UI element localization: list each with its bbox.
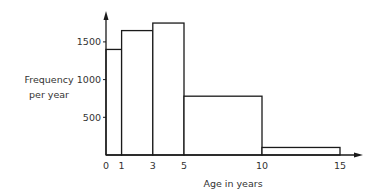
x-tick-label: 1 — [119, 160, 125, 171]
y-ticks: 50010001500 — [77, 36, 106, 122]
histogram-bars — [106, 23, 340, 155]
y-tick-label: 1500 — [77, 36, 101, 47]
histogram-bar — [122, 31, 153, 155]
histogram-bar — [184, 96, 262, 155]
y-axis-arrow-icon — [104, 11, 109, 20]
x-tick-label: 3 — [150, 160, 156, 171]
histogram-bar — [106, 49, 122, 155]
histogram-chart: 50010001500 01351015 Age in years — [0, 0, 373, 196]
x-tick-label: 0 — [103, 160, 109, 171]
histogram-bar — [262, 147, 340, 155]
x-axis-arrow-icon — [354, 153, 363, 158]
x-ticks: 01351015 — [103, 160, 346, 171]
y-tick-label: 500 — [83, 112, 101, 123]
histogram-bar — [153, 23, 184, 155]
x-tick-label: 10 — [256, 160, 268, 171]
x-tick-label: 5 — [181, 160, 187, 171]
x-axis-label: Age in years — [203, 178, 262, 189]
x-tick-label: 15 — [334, 160, 346, 171]
y-tick-label: 1000 — [77, 74, 101, 85]
